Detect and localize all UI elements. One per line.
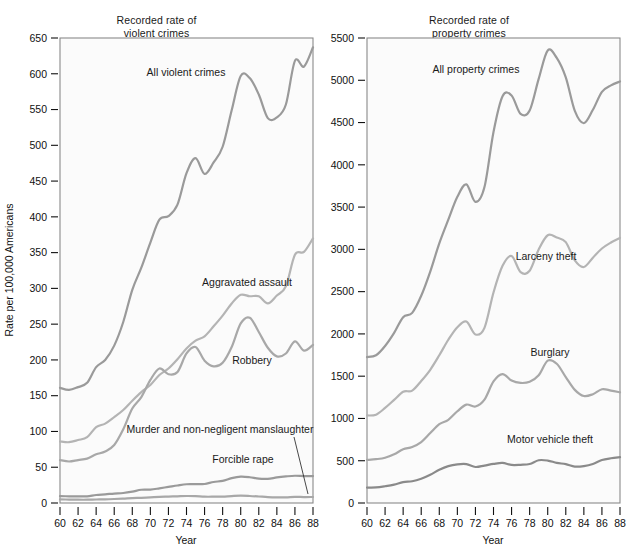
crime-rates-figure: Recorded rate of violent crimes Rate per… bbox=[0, 0, 642, 551]
x-tick-label: 76 bbox=[199, 517, 211, 529]
x-tick-label: 62 bbox=[72, 517, 84, 529]
y-tick-label: 2000 bbox=[331, 328, 355, 340]
y-tick-label: 4000 bbox=[331, 159, 355, 171]
label-burglary: Burglary bbox=[530, 346, 570, 358]
label-robbery: Robbery bbox=[232, 354, 272, 366]
x-tick-label: 78 bbox=[217, 517, 229, 529]
violent-x-axis-ticks: 606264666870727476788082848688 bbox=[54, 507, 319, 529]
y-tick-label: 3000 bbox=[331, 243, 355, 255]
y-tick-label: 50 bbox=[35, 461, 47, 473]
y-tick-label: 250 bbox=[29, 318, 47, 330]
x-tick-label: 84 bbox=[271, 517, 283, 529]
y-tick-label: 200 bbox=[29, 354, 47, 366]
y-tick-label: 400 bbox=[29, 211, 47, 223]
y-tick-label: 600 bbox=[29, 68, 47, 80]
x-tick-label: 70 bbox=[452, 517, 464, 529]
y-tick-label: 650 bbox=[29, 32, 47, 44]
x-tick-label: 80 bbox=[235, 517, 247, 529]
x-tick-label: 70 bbox=[145, 517, 157, 529]
label-motor-vehicle-theft: Motor vehicle theft bbox=[507, 433, 593, 445]
y-tick-label: 450 bbox=[29, 175, 47, 187]
y-tick-label: 5500 bbox=[331, 32, 355, 44]
x-tick-label: 66 bbox=[108, 517, 120, 529]
x-tick-label: 64 bbox=[90, 517, 102, 529]
x-tick-label: 82 bbox=[560, 517, 572, 529]
x-tick-label: 60 bbox=[54, 517, 66, 529]
x-tick-label: 82 bbox=[253, 517, 265, 529]
x-tick-label: 78 bbox=[524, 517, 536, 529]
y-tick-label: 2500 bbox=[331, 285, 355, 297]
label-all-property-crimes: All property crimes bbox=[433, 63, 520, 75]
label-larceny-theft: Larceny theft bbox=[516, 250, 577, 262]
label-aggravated-assault: Aggravated assault bbox=[202, 276, 292, 288]
x-tick-label: 74 bbox=[488, 517, 500, 529]
property-y-axis-ticks: 0500100015002000250030003500400045005000… bbox=[331, 32, 365, 509]
panel-violent-crimes: Recorded rate of violent crimes Rate per… bbox=[0, 0, 330, 551]
violent-y-axis-ticks: 050100150200250300350400450500550600650 bbox=[29, 32, 58, 509]
x-tick-label: 84 bbox=[578, 517, 590, 529]
x-tick-label: 72 bbox=[163, 517, 175, 529]
y-axis-label: Rate per 100,000 Americans bbox=[3, 203, 15, 336]
x-tick-label: 76 bbox=[506, 517, 518, 529]
violent-x-axis-label: Year bbox=[175, 534, 197, 546]
y-tick-label: 4500 bbox=[331, 116, 355, 128]
y-tick-label: 500 bbox=[336, 455, 354, 467]
y-tick-label: 500 bbox=[29, 139, 47, 151]
y-tick-label: 300 bbox=[29, 282, 47, 294]
y-tick-label: 5000 bbox=[331, 74, 355, 86]
x-tick-label: 66 bbox=[415, 517, 427, 529]
x-tick-label: 88 bbox=[614, 517, 626, 529]
x-tick-label: 86 bbox=[596, 517, 608, 529]
x-tick-label: 68 bbox=[433, 517, 445, 529]
y-tick-label: 0 bbox=[41, 497, 47, 509]
label-all-violent-crimes: All violent crimes bbox=[147, 66, 226, 78]
x-tick-label: 62 bbox=[379, 517, 391, 529]
y-tick-label: 550 bbox=[29, 103, 47, 115]
x-tick-label: 60 bbox=[361, 517, 373, 529]
y-tick-label: 150 bbox=[29, 389, 47, 401]
label-murder: Murder and non-negligent manslaughter bbox=[127, 423, 314, 435]
y-tick-label: 3500 bbox=[331, 201, 355, 213]
label-forcible-rape: Forcible rape bbox=[212, 453, 273, 465]
y-tick-label: 1000 bbox=[331, 412, 355, 424]
violent-crimes-plot: Rate per 100,000 Americans 0501001502002… bbox=[0, 0, 330, 551]
x-tick-label: 74 bbox=[181, 517, 193, 529]
x-tick-label: 64 bbox=[397, 517, 409, 529]
x-tick-label: 72 bbox=[470, 517, 482, 529]
x-tick-label: 86 bbox=[289, 517, 301, 529]
y-tick-label: 1500 bbox=[331, 370, 355, 382]
panel-property-crimes: Recorded rate of property crimes 0500100… bbox=[318, 0, 642, 551]
y-tick-label: 100 bbox=[29, 425, 47, 437]
y-tick-label: 0 bbox=[348, 497, 354, 509]
property-crimes-plot: 0500100015002000250030003500400045005000… bbox=[318, 0, 642, 551]
y-tick-label: 350 bbox=[29, 246, 47, 258]
property-x-axis-label: Year bbox=[482, 534, 504, 546]
x-tick-label: 80 bbox=[542, 517, 554, 529]
x-tick-label: 68 bbox=[126, 517, 138, 529]
property-x-axis-ticks: 606264666870727476788082848688 bbox=[361, 507, 626, 529]
